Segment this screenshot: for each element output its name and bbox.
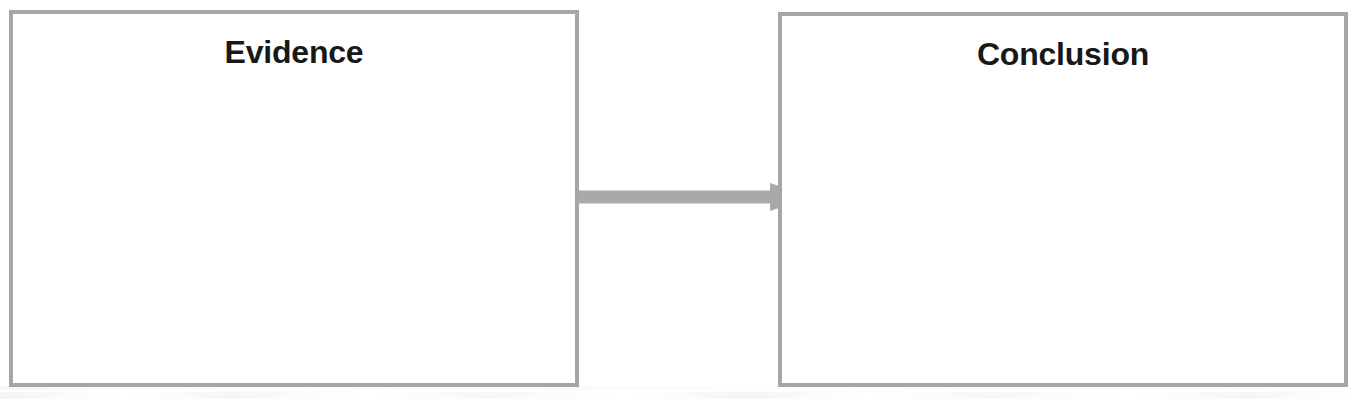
evidence-box[interactable]: Evidence [9,10,579,387]
conclusion-box[interactable]: Conclusion [778,12,1348,387]
scan-artifact-lower [0,392,1357,399]
diagram-canvas: Evidence Conclusion [0,0,1357,404]
conclusion-box-label: Conclusion [782,38,1344,70]
evidence-box-label: Evidence [13,36,575,68]
